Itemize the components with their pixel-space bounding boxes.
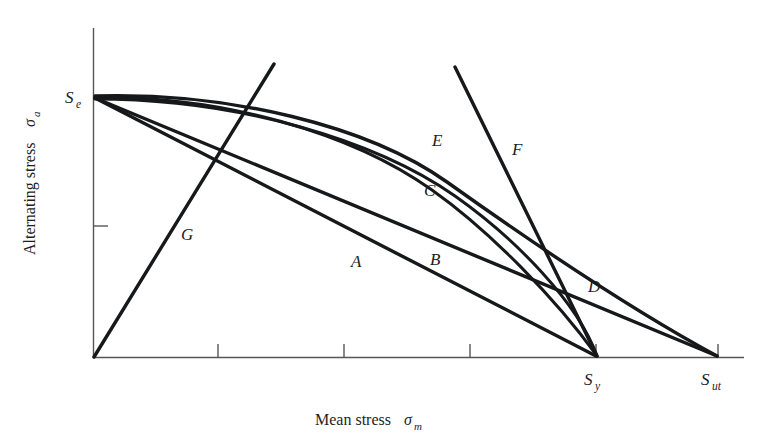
curve-label-D: D <box>587 277 601 296</box>
Sut-subscript: ut <box>712 380 722 392</box>
Sy-subscript: y <box>594 380 601 393</box>
curve-label-G: G <box>181 225 193 244</box>
Sy-symbol: S <box>584 370 593 389</box>
Se-symbol: S <box>65 88 74 107</box>
curve-label-C: C <box>424 181 436 200</box>
chart-background <box>0 0 771 443</box>
x-axis-title-subscript: m <box>414 420 422 432</box>
curve-label-B: B <box>430 250 441 269</box>
y-axis-title-subscript: a <box>30 111 42 117</box>
x-axis-title-symbol: σ <box>404 411 413 428</box>
fatigue-failure-criteria-chart: A B C D E F G S e S y S ut Mean stress σ… <box>0 0 771 443</box>
curve-label-E: E <box>431 131 443 150</box>
y-axis-title-symbol: σ <box>21 118 38 127</box>
curve-label-A: A <box>350 252 362 271</box>
Sut-symbol: S <box>701 370 710 389</box>
x-axis-title-text: Mean stress <box>315 411 391 428</box>
Se-subscript: e <box>76 98 81 110</box>
y-axis-title-text: Alternating stress <box>21 143 39 255</box>
curve-label-F: F <box>511 140 523 159</box>
